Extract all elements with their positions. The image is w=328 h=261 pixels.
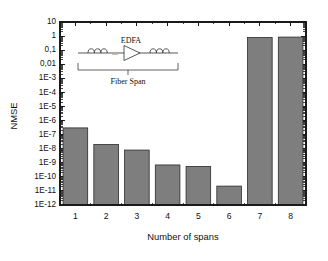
x-tick-label: 2 [104,211,109,221]
y-axis-tick-labels: 1010,10,011E-31E-41E-51E-61E-71E-81E-91E… [34,17,56,209]
y-tick-label: 1E-10 [34,172,56,181]
y-tick-label: 1E-3 [39,73,57,82]
x-tick-label: 4 [165,211,170,221]
y-tick-label: 1E-8 [39,144,57,153]
bar [248,37,273,205]
nmse-bar-chart: 12345678 1010,10,011E-31E-41E-51E-61E-71… [0,0,328,261]
bar [155,165,180,205]
y-tick-label: 1E-12 [34,200,56,209]
y-tick-label: 1E-7 [39,130,57,139]
x-axis-title: Number of spans [147,231,219,242]
bar-series [63,37,303,205]
bar [63,128,88,205]
bar [125,150,150,205]
x-tick-label: 8 [288,211,293,221]
fiber-span-bracket-icon [78,63,178,75]
y-tick-label: 1E-4 [39,88,57,97]
bar [186,166,211,205]
y-tick-label: 10 [47,17,57,26]
inset-diagram: ... EDFA Fiber Span [78,36,178,86]
y-tick-label: 0,01 [40,59,56,68]
y-tick-label: 1 [51,31,56,40]
x-axis-tick-labels: 12345678 [73,211,293,221]
bar [217,186,242,205]
inset-ellipsis: ... [112,48,118,57]
fiber-span-label: Fiber Span [111,77,146,86]
x-tick-label: 1 [73,211,78,221]
y-tick-label: 1E-9 [39,158,57,167]
fiber-coil-left-icon [88,49,107,53]
bar [278,37,303,205]
figure-container: 12345678 1010,10,011E-31E-41E-51E-61E-71… [0,0,328,261]
y-tick-label: 1E-5 [39,102,57,111]
fiber-coil-right-icon [150,49,169,53]
y-axis-title: NMSE [8,102,19,129]
x-tick-label: 3 [134,211,139,221]
y-tick-label: 1E-6 [39,116,57,125]
y-tick-label: 0,1 [45,45,57,54]
bar [94,144,119,205]
x-tick-label: 7 [257,211,262,221]
edfa-amplifier-icon [124,46,140,61]
x-tick-label: 6 [227,211,232,221]
y-tick-label: 1E-11 [35,186,57,195]
x-tick-label: 5 [196,211,201,221]
edfa-label: EDFA [121,36,142,45]
